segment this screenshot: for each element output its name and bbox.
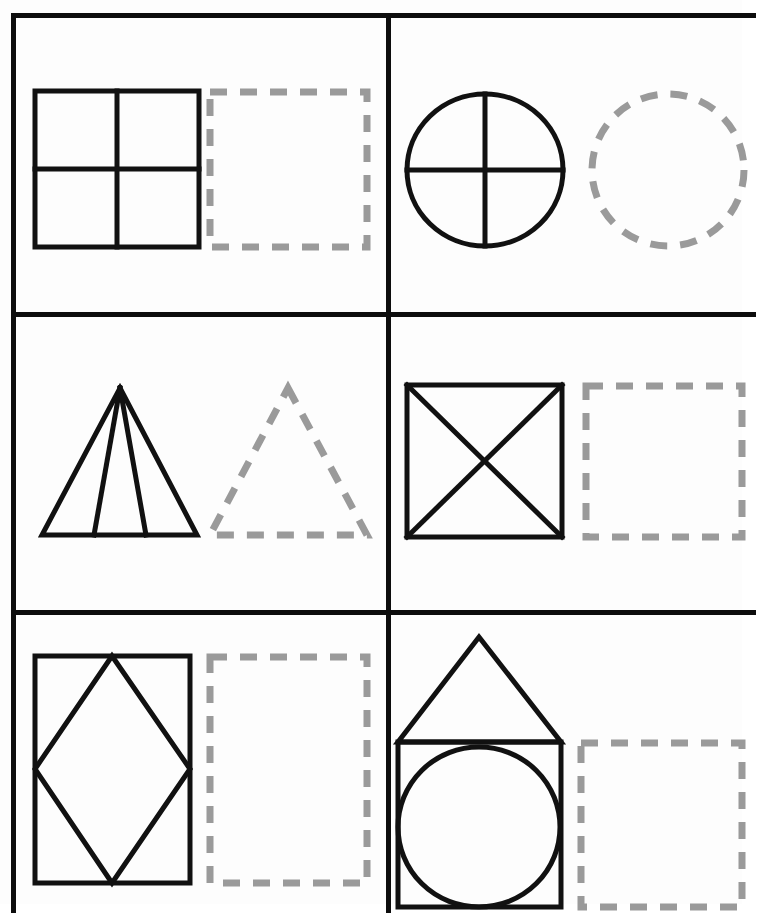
worksheet-grid bbox=[11, 13, 756, 913]
worksheet-cell-1[interactable] bbox=[16, 18, 386, 312]
cell-5-shapes bbox=[16, 615, 386, 917]
cell-1-shapes bbox=[16, 18, 386, 312]
dashed-rectangle-trace bbox=[210, 657, 367, 883]
square-with-diagonals-model bbox=[407, 385, 562, 537]
square-divided-quarters-model bbox=[35, 91, 199, 247]
dashed-circle-trace bbox=[592, 94, 744, 246]
dashed-square-trace bbox=[581, 743, 742, 907]
house-square-triangle-circle-model bbox=[398, 637, 561, 907]
worksheet-cell-3[interactable] bbox=[16, 317, 386, 610]
circle-divided-quarters-model bbox=[407, 94, 563, 246]
worksheet-cell-4[interactable] bbox=[391, 317, 760, 610]
dashed-square-trace bbox=[210, 92, 367, 247]
worksheet-cell-6[interactable] bbox=[391, 615, 760, 917]
cell-3-shapes bbox=[16, 317, 386, 610]
triangle-divided-four-model bbox=[42, 388, 197, 535]
cell-4-shapes bbox=[391, 317, 760, 610]
dashed-triangle-trace bbox=[210, 388, 367, 535]
worksheet-cell-5[interactable] bbox=[16, 615, 386, 917]
worksheet-cell-2[interactable] bbox=[391, 18, 760, 312]
dashed-square-trace bbox=[586, 386, 742, 537]
cell-2-shapes bbox=[391, 18, 760, 312]
cell-6-shapes bbox=[391, 615, 760, 917]
rectangle-with-inscribed-diamond-model bbox=[35, 656, 190, 883]
